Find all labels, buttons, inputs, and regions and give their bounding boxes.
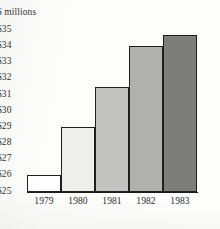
y-tick-label: $26 bbox=[0, 170, 12, 180]
y-tick-label: $35 bbox=[0, 25, 12, 35]
bars-row bbox=[27, 23, 198, 192]
x-tick-label: 1979 bbox=[27, 196, 61, 206]
x-tick-label: 1983 bbox=[163, 196, 197, 206]
y-tick-label: $28 bbox=[0, 138, 12, 148]
bar bbox=[163, 35, 197, 192]
y-axis-unit-caption: $ millions bbox=[0, 7, 36, 17]
bar bbox=[27, 175, 61, 191]
x-tick-label: 1980 bbox=[61, 196, 95, 206]
y-tick-label: $25 bbox=[0, 187, 12, 197]
y-tick-label: $29 bbox=[0, 122, 12, 132]
x-axis-tick-labels: 19791980198119821983 bbox=[27, 196, 198, 206]
plot-area bbox=[27, 22, 198, 193]
bar bbox=[129, 46, 163, 191]
y-tick-label: $33 bbox=[0, 57, 12, 67]
y-tick-label: $30 bbox=[0, 106, 12, 116]
x-tick-label: 1981 bbox=[95, 196, 129, 206]
bar bbox=[61, 127, 95, 192]
y-tick-label: $31 bbox=[0, 90, 12, 100]
bar bbox=[95, 87, 129, 192]
y-tick-label: $32 bbox=[0, 73, 12, 83]
y-tick-label: $34 bbox=[0, 41, 12, 51]
y-tick-label: $27 bbox=[0, 154, 12, 164]
x-tick-label: 1982 bbox=[129, 196, 163, 206]
bar-chart-figure: $ millions $35$34$33$32$31$30$29$28$27$2… bbox=[0, 0, 220, 229]
x-axis-baseline bbox=[27, 192, 198, 193]
